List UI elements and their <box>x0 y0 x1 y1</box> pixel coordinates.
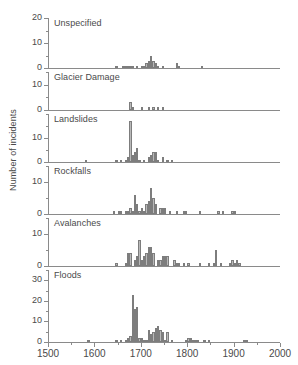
histogram-bar <box>162 66 164 69</box>
y-tick-major <box>44 266 48 267</box>
histogram-bar <box>234 211 236 214</box>
y-tick-label: 30 <box>18 275 42 284</box>
histogram-bar <box>143 160 145 162</box>
y-tick-label: 10 <box>18 316 42 325</box>
histogram-bar <box>113 211 115 214</box>
histogram-bar <box>129 253 131 266</box>
y-tick-major <box>44 68 48 69</box>
histogram-bar <box>120 160 122 162</box>
x-tick-minor <box>257 343 258 345</box>
panel-glacier-damage: 010Glacier Damage <box>0 72 298 110</box>
histogram-bar <box>199 211 201 214</box>
histogram-bar <box>148 107 150 110</box>
incidents-histogram-figure: Number of incidents 01020Unspecified010G… <box>0 0 298 365</box>
bar-series <box>48 72 280 110</box>
histogram-bar <box>115 66 117 69</box>
histogram-bar <box>208 263 210 266</box>
histogram-bar <box>178 66 180 69</box>
x-tick <box>141 343 142 347</box>
histogram-bar <box>199 263 201 266</box>
y-tick-label: 0 <box>18 261 42 270</box>
y-tick-major <box>44 110 48 111</box>
y-tick-label: 0 <box>18 209 42 218</box>
x-tick-minor <box>71 343 72 345</box>
histogram-bar <box>217 211 219 214</box>
bar-series <box>48 114 280 162</box>
y-tick-major <box>44 214 48 215</box>
x-tick <box>48 343 49 347</box>
y-tick-major <box>44 162 48 163</box>
histogram-bar <box>238 263 240 266</box>
histogram-bar <box>162 107 164 110</box>
panel-baseline <box>48 214 280 215</box>
histogram-bar <box>176 211 178 214</box>
histogram-bar <box>162 157 164 162</box>
x-tick <box>234 343 235 347</box>
x-tick <box>94 343 95 347</box>
histogram-bar <box>115 160 117 162</box>
bar-series <box>48 218 280 266</box>
y-tick-label: 0 <box>18 337 42 346</box>
bar-series <box>48 166 280 214</box>
panel-landslides: 010Landslides <box>0 114 298 162</box>
histogram-bar <box>183 263 185 266</box>
histogram-bar <box>215 250 217 266</box>
panel-baseline <box>48 266 280 267</box>
y-tick-label: 10 <box>18 80 42 89</box>
x-tick <box>187 343 188 347</box>
histogram-bar <box>152 253 154 266</box>
x-tick-label: 1600 <box>74 349 114 359</box>
histogram-bar <box>155 204 157 214</box>
x-tick-minor <box>210 343 211 345</box>
panel-baseline <box>48 68 280 69</box>
histogram-bar <box>201 66 203 69</box>
histogram-bar <box>141 107 143 110</box>
y-tick-label: 0 <box>18 157 42 166</box>
histogram-bar <box>187 263 189 266</box>
x-tick-label: 1700 <box>121 349 161 359</box>
histogram-bar <box>120 211 122 214</box>
bar-series <box>48 270 280 342</box>
histogram-bar <box>166 332 168 342</box>
y-tick-label: 10 <box>18 177 42 186</box>
histogram-bar <box>166 160 168 162</box>
y-tick-label: 20 <box>18 296 42 305</box>
x-tick-label: 1500 <box>28 349 68 359</box>
histogram-bar <box>115 263 117 266</box>
x-tick <box>280 343 281 347</box>
histogram-bar <box>178 263 180 266</box>
panel-rockfalls: 010Rockfalls <box>0 166 298 214</box>
histogram-bar <box>157 107 159 110</box>
histogram-bar <box>171 160 173 162</box>
histogram-bar <box>222 211 224 214</box>
histogram-bar <box>157 66 159 69</box>
histogram-bar <box>132 107 134 110</box>
panel-unspecified: 01020Unspecified <box>0 18 298 68</box>
panel-baseline <box>48 110 280 111</box>
x-tick-label: 1900 <box>214 349 254 359</box>
panel-baseline <box>48 162 280 163</box>
histogram-bar <box>136 307 138 342</box>
histogram-bar <box>166 256 168 266</box>
bar-series <box>48 18 280 68</box>
histogram-bar <box>85 160 87 162</box>
y-tick-label: 10 <box>18 38 42 47</box>
panel-avalanches: 010Avalanches <box>0 218 298 266</box>
histogram-bar <box>220 263 222 266</box>
x-tick-minor <box>164 343 165 345</box>
y-tick-label: 0 <box>18 105 42 114</box>
x-tick-label: 1800 <box>167 349 207 359</box>
y-tick-label: 10 <box>18 229 42 238</box>
histogram-bar <box>157 160 159 162</box>
histogram-bar <box>138 160 140 162</box>
panel-floods: 0102030Floods <box>0 270 298 342</box>
histogram-bar <box>185 211 187 214</box>
histogram-bar <box>152 107 154 110</box>
histogram-bar <box>136 66 138 69</box>
y-tick-label: 0 <box>18 63 42 72</box>
x-tick-minor <box>118 343 119 345</box>
y-tick-label: 20 <box>18 13 42 22</box>
y-tick-label: 10 <box>18 133 42 142</box>
x-tick-label: 2000 <box>260 349 298 359</box>
histogram-bar <box>169 211 171 214</box>
